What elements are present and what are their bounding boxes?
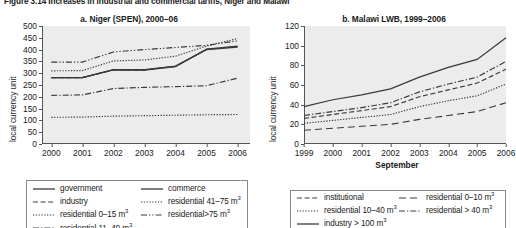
panel-a-y-axis-label: local currency unit: [8, 76, 18, 142]
legend-label-superscript: 3: [489, 204, 492, 210]
x-tick-label: 2002: [104, 144, 123, 158]
y-tick-label: 120: [285, 21, 304, 31]
x-tick-label: 2003: [410, 144, 429, 158]
x-tick-label: 2000: [324, 144, 343, 158]
x-tick-label: 2004: [166, 144, 185, 158]
x-tick-label: 2005: [468, 144, 487, 158]
y-tick-label: 80: [290, 60, 304, 70]
legend-label: institutional: [324, 193, 364, 202]
legend-label-superscript: 3: [227, 209, 230, 215]
series-line: [51, 115, 237, 118]
legend-item: commerce: [141, 184, 205, 193]
chart-panel-niger: a. Niger (SPEN), 2000–06 local currency …: [0, 14, 258, 228]
legend-niger: governmentcommerceindustryresidential 41…: [26, 180, 248, 228]
legend-malawi: institutionalresidential 0–10 m3resident…: [290, 190, 506, 228]
figure-title: Figure 3.14 Increases in industrial and …: [4, 0, 289, 6]
legend-line-swatch: [141, 198, 163, 206]
legend-line-swatch: [33, 224, 55, 228]
panel-b-x-axis-title: September: [258, 160, 516, 170]
y-tick-label: 100: [23, 115, 42, 125]
plot-area-niger: 050100150200250300350400450500 200020012…: [42, 26, 250, 144]
x-tick-label: 2006: [228, 144, 247, 158]
legend-item: residential > 40 m3: [399, 206, 492, 215]
y-tick-label: 250: [23, 80, 42, 90]
y-tick-label: 100: [285, 41, 304, 51]
series-line: [51, 47, 237, 77]
legend-label: residential>75 m3: [168, 210, 230, 219]
y-tick-label: 200: [23, 92, 42, 102]
legend-line-swatch: [399, 194, 421, 202]
legend-item: residential>75 m3: [141, 210, 230, 219]
y-tick-label: 450: [23, 33, 42, 43]
y-tick-label: 350: [23, 56, 42, 66]
legend-item: residential 11–40 m3: [33, 224, 132, 228]
legend-item: residential 41–75 m3: [141, 197, 241, 206]
y-tick-label: 500: [23, 21, 42, 31]
y-tick-label: 400: [23, 45, 42, 55]
x-tick-label: 2004: [439, 144, 458, 158]
legend-label: residential 41–75 m3: [168, 197, 241, 206]
x-tick-label: 2000: [42, 144, 61, 158]
legend-line-swatch: [33, 211, 55, 219]
y-tick-label: 150: [23, 104, 42, 114]
y-tick-label: 300: [23, 68, 42, 78]
legend-item: residential 0–10 m3: [399, 193, 494, 202]
legend-label: residential 11–40 m3: [60, 224, 132, 228]
plot-area-malawi: 020406080100120 199920002001200220032004…: [304, 26, 506, 144]
chart-panel-malawi: b. Malawi LWB, 1999–2006 local currency …: [258, 14, 516, 228]
legend-line-swatch: [141, 211, 163, 219]
series-line: [51, 41, 237, 62]
series-line: [304, 103, 506, 131]
legend-line-swatch: [399, 207, 421, 215]
legend-label-superscript: 3: [394, 204, 397, 210]
series-lines: [42, 26, 250, 144]
series-line: [51, 78, 237, 95]
legend-label: government: [60, 184, 102, 193]
x-tick-label: 2001: [73, 144, 92, 158]
y-tick-label: 50: [28, 127, 42, 137]
series-lines: [304, 26, 506, 144]
panel-b-y-axis-label: local currency unit: [268, 76, 278, 142]
legend-line-swatch: [297, 220, 319, 228]
legend-line-swatch: [33, 185, 55, 193]
y-tick-label: 20: [290, 119, 304, 129]
x-tick-label: 2006: [497, 144, 516, 158]
legend-line-swatch: [33, 198, 55, 206]
x-tick-label: 2005: [197, 144, 216, 158]
series-line: [304, 84, 506, 123]
legend-item: government: [33, 184, 102, 193]
legend-line-swatch: [297, 194, 319, 202]
x-tick-label: 2001: [352, 144, 371, 158]
legend-item: institutional: [297, 193, 364, 202]
legend-label-superscript: 3: [238, 195, 241, 201]
legend-label: industry > 100 m3: [324, 219, 386, 228]
legend-label-superscript: 3: [129, 222, 132, 228]
series-line: [51, 47, 237, 78]
y-tick-label: 0: [32, 139, 42, 149]
legend-line-swatch: [141, 185, 163, 193]
legend-line-swatch: [297, 207, 319, 215]
legend-items: governmentcommerceindustryresidential 41…: [27, 181, 247, 228]
y-tick-label: 60: [290, 80, 304, 90]
legend-label-superscript: 3: [383, 218, 386, 224]
y-tick-label: 40: [290, 100, 304, 110]
series-line: [51, 46, 237, 78]
legend-item: industry > 100 m3: [297, 219, 386, 228]
x-tick-label: 2003: [135, 144, 154, 158]
legend-label: residential 0–15 m3: [60, 210, 128, 219]
legend-item: residential 10–40 m3: [297, 206, 397, 215]
x-tick-label: 2002: [381, 144, 400, 158]
legend-label: residential > 40 m3: [426, 206, 492, 215]
x-tick-label: 1999: [295, 144, 314, 158]
legend-label: residential 0–10 m3: [426, 193, 494, 202]
series-line: [304, 61, 506, 115]
legend-label: commerce: [168, 184, 205, 193]
legend-items: institutionalresidential 0–10 m3resident…: [291, 191, 505, 228]
legend-label: residential 10–40 m3: [324, 206, 397, 215]
legend-label: industry: [60, 197, 88, 206]
legend-label-superscript: 3: [125, 209, 128, 215]
series-line: [51, 39, 237, 71]
legend-item: industry: [33, 197, 88, 206]
legend-label-superscript: 3: [491, 191, 494, 197]
legend-item: residential 0–15 m3: [33, 210, 128, 219]
